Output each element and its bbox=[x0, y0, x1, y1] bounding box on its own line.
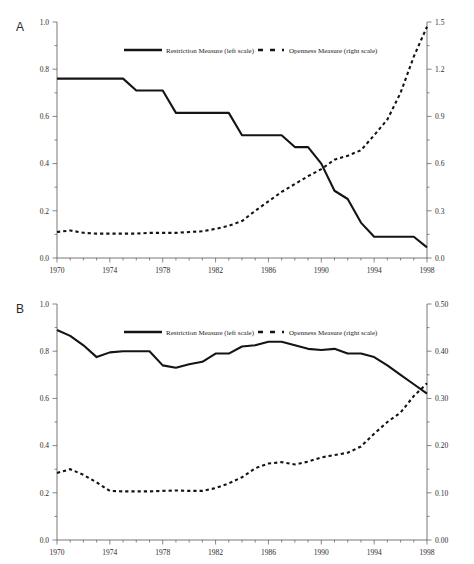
y-left-tick-label: 0.6 bbox=[40, 112, 50, 121]
y-left-tick-label: 0.4 bbox=[40, 441, 50, 450]
y-right-tick-label: 1.2 bbox=[435, 65, 445, 74]
series-line-openness bbox=[57, 383, 427, 491]
x-tick-label: 1998 bbox=[420, 266, 435, 275]
x-tick-label: 1978 bbox=[155, 548, 170, 557]
y-right-tick-label: 0.3 bbox=[435, 207, 445, 216]
y-left-tick-label: 0.0 bbox=[40, 536, 50, 545]
y-left-tick-label: 0.8 bbox=[40, 65, 50, 74]
x-tick-label: 1982 bbox=[208, 548, 223, 557]
x-tick-label: 1974 bbox=[102, 266, 117, 275]
y-right-tick-label: 0.0 bbox=[435, 254, 445, 263]
x-tick-label: 1986 bbox=[261, 548, 276, 557]
legend-label-restriction: Restriction Measure (left scale) bbox=[166, 47, 255, 55]
x-tick-label: 1970 bbox=[50, 548, 65, 557]
x-tick-label: 1970 bbox=[50, 266, 65, 275]
y-left-tick-label: 0.4 bbox=[40, 159, 50, 168]
x-tick-label: 1986 bbox=[261, 266, 276, 275]
y-left-tick-label: 1.0 bbox=[40, 18, 50, 27]
chart-panel-b: B 197019741978198219861990199419980.00.2… bbox=[0, 282, 474, 564]
y-left-tick-label: 0.2 bbox=[40, 489, 50, 498]
y-left-tick-label: 1.0 bbox=[40, 300, 50, 309]
x-tick-label: 1974 bbox=[102, 548, 117, 557]
plot-area-a: 197019741978198219861990199419980.00.20.… bbox=[0, 0, 474, 282]
x-tick-label: 1998 bbox=[420, 548, 435, 557]
y-right-tick-label: 0.20 bbox=[435, 441, 448, 450]
chart-panel-a: A 197019741978198219861990199419980.00.2… bbox=[0, 0, 474, 282]
x-tick-label: 1978 bbox=[155, 266, 170, 275]
y-right-tick-label: 1.5 bbox=[435, 18, 445, 27]
legend: Restriction Measure (left scale)Openness… bbox=[124, 329, 378, 337]
y-right-tick-label: 0.6 bbox=[435, 159, 445, 168]
y-left-tick-label: 0.2 bbox=[40, 207, 50, 216]
legend: Restriction Measure (left scale)Openness… bbox=[124, 47, 378, 55]
series-line-openness bbox=[57, 27, 427, 234]
legend-label-restriction: Restriction Measure (left scale) bbox=[166, 329, 255, 337]
x-tick-label: 1994 bbox=[367, 548, 382, 557]
y-right-tick-label: 0.10 bbox=[435, 489, 448, 498]
series-line-restriction bbox=[57, 330, 427, 394]
x-tick-label: 1990 bbox=[314, 266, 329, 275]
plot-area-b: 197019741978198219861990199419980.00.20.… bbox=[0, 282, 474, 564]
legend-label-openness: Openness Measure (right scale) bbox=[289, 47, 378, 55]
y-left-tick-label: 0.0 bbox=[40, 254, 50, 263]
y-left-tick-label: 0.6 bbox=[40, 394, 50, 403]
x-tick-label: 1994 bbox=[367, 266, 382, 275]
x-tick-label: 1982 bbox=[208, 266, 223, 275]
y-left-tick-label: 0.8 bbox=[40, 347, 50, 356]
y-right-tick-label: 0.30 bbox=[435, 394, 448, 403]
y-right-tick-label: 0.50 bbox=[435, 300, 448, 309]
x-tick-label: 1990 bbox=[314, 548, 329, 557]
figure-container: A 197019741978198219861990199419980.00.2… bbox=[0, 0, 474, 564]
y-right-tick-label: 0.00 bbox=[435, 536, 448, 545]
legend-label-openness: Openness Measure (right scale) bbox=[289, 329, 378, 337]
y-right-tick-label: 0.9 bbox=[435, 112, 445, 121]
y-right-tick-label: 0.40 bbox=[435, 347, 448, 356]
